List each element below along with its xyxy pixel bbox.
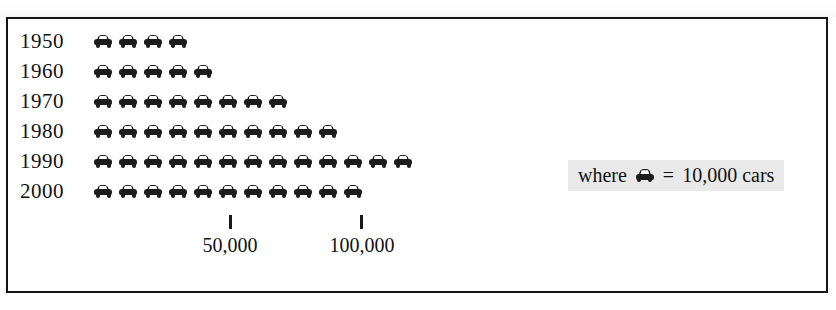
car-icon bbox=[169, 95, 187, 108]
legend-equals: = bbox=[663, 164, 674, 187]
car-icon bbox=[219, 155, 237, 168]
car-icon bbox=[294, 185, 312, 198]
car-icon bbox=[169, 185, 187, 198]
car-icon bbox=[94, 35, 112, 48]
car-icon bbox=[144, 35, 162, 48]
car-icon bbox=[94, 125, 112, 138]
car-icon bbox=[194, 185, 212, 198]
page-bottom-margin bbox=[0, 294, 836, 310]
car-icon bbox=[269, 125, 287, 138]
car-icon bbox=[344, 155, 362, 168]
car-icon bbox=[219, 185, 237, 198]
car-icon bbox=[636, 169, 654, 182]
car-icon bbox=[119, 35, 137, 48]
pictograph-row-2000: 2000 bbox=[20, 179, 362, 203]
row-icons-1990 bbox=[94, 155, 412, 168]
car-icon bbox=[144, 155, 162, 168]
car-icon bbox=[94, 95, 112, 108]
car-icon bbox=[144, 65, 162, 78]
car-icon bbox=[319, 155, 337, 168]
car-icon bbox=[169, 35, 187, 48]
car-icon bbox=[119, 65, 137, 78]
pictograph-row-1960: 1960 bbox=[20, 59, 212, 83]
row-year-label: 2000 bbox=[20, 179, 94, 203]
axis-tick-50000 bbox=[229, 215, 232, 229]
pictograph-frame: 1950 1960 1970 1980 1990 2000 50,000 100… bbox=[6, 17, 828, 293]
row-icons-1950 bbox=[94, 35, 187, 48]
car-icon bbox=[269, 95, 287, 108]
car-icon bbox=[269, 185, 287, 198]
car-icon bbox=[319, 125, 337, 138]
legend-suffix: 10,000 cars bbox=[682, 164, 774, 187]
car-icon bbox=[319, 185, 337, 198]
car-icon bbox=[119, 155, 137, 168]
car-icon bbox=[394, 155, 412, 168]
pictograph-row-1950: 1950 bbox=[20, 29, 187, 53]
car-icon bbox=[219, 125, 237, 138]
car-icon bbox=[169, 155, 187, 168]
car-icon bbox=[294, 125, 312, 138]
car-icon bbox=[294, 155, 312, 168]
pictograph-chart-area: 1950 1960 1970 1980 1990 2000 50,000 100… bbox=[8, 19, 826, 291]
row-icons-1960 bbox=[94, 65, 212, 78]
car-icon bbox=[119, 185, 137, 198]
axis-tick-label-50000: 50,000 bbox=[203, 234, 258, 257]
axis-tick-100000 bbox=[360, 215, 363, 229]
row-icons-2000 bbox=[94, 185, 362, 198]
car-icon bbox=[144, 185, 162, 198]
car-icon bbox=[194, 155, 212, 168]
car-icon bbox=[119, 125, 137, 138]
car-icon bbox=[144, 95, 162, 108]
legend: where = 10,000 cars bbox=[568, 160, 784, 191]
row-icons-1970 bbox=[94, 95, 287, 108]
axis-tick-label-100000: 100,000 bbox=[330, 234, 395, 257]
row-year-label: 1950 bbox=[20, 29, 94, 53]
car-icon bbox=[169, 125, 187, 138]
pictograph-row-1980: 1980 bbox=[20, 119, 337, 143]
car-icon bbox=[144, 125, 162, 138]
pictograph-row-1990: 1990 bbox=[20, 149, 412, 173]
car-icon bbox=[219, 95, 237, 108]
car-icon bbox=[194, 65, 212, 78]
car-icon bbox=[369, 155, 387, 168]
car-icon bbox=[244, 95, 262, 108]
row-year-label: 1980 bbox=[20, 119, 94, 143]
row-year-label: 1960 bbox=[20, 59, 94, 83]
car-icon bbox=[94, 65, 112, 78]
car-icon bbox=[244, 125, 262, 138]
car-icon bbox=[244, 155, 262, 168]
row-year-label: 1990 bbox=[20, 149, 94, 173]
car-icon bbox=[244, 185, 262, 198]
row-year-label: 1970 bbox=[20, 89, 94, 113]
car-icon bbox=[194, 95, 212, 108]
row-icons-1980 bbox=[94, 125, 337, 138]
pictograph-row-1970: 1970 bbox=[20, 89, 287, 113]
page-top-margin bbox=[0, 0, 836, 17]
car-icon bbox=[169, 65, 187, 78]
car-icon bbox=[344, 185, 362, 198]
car-icon bbox=[194, 125, 212, 138]
legend-prefix: where bbox=[578, 164, 627, 187]
car-icon bbox=[94, 155, 112, 168]
car-icon bbox=[119, 95, 137, 108]
car-icon bbox=[269, 155, 287, 168]
car-icon bbox=[94, 185, 112, 198]
